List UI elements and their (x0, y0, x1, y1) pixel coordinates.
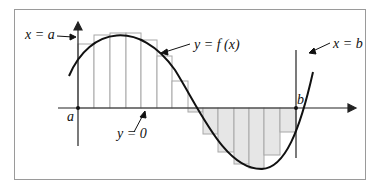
label-b: b (297, 92, 304, 107)
point-a (76, 106, 80, 110)
label-y-eq-fx: y = f (x) (192, 37, 240, 53)
riemann-sum-diagram: x = a y = f (x) x = b y = 0 a b (0, 0, 380, 187)
x-axis-arrow-icon (348, 104, 356, 112)
label-a: a (67, 109, 74, 124)
label-x-eq-b: x = b (332, 36, 363, 51)
y-axis-arrow-icon (74, 22, 82, 30)
label-y-eq-0: y = 0 (115, 126, 147, 141)
label-x-eq-a: x = a (24, 27, 55, 42)
